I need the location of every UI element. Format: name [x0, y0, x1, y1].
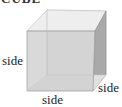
label-side-left: side [2, 54, 23, 67]
cube-front-face [27, 31, 95, 91]
cube-top-face [27, 10, 106, 31]
label-side-right: side [98, 81, 119, 94]
label-side-bottom: side [42, 93, 63, 106]
